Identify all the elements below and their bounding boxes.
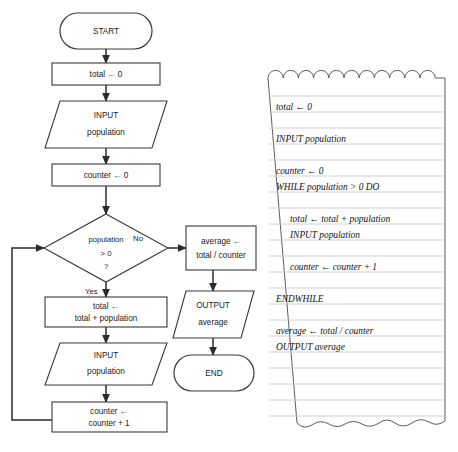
node-end-label: END — [205, 369, 222, 378]
node-input-population-2: INPUT population — [45, 343, 167, 385]
notepad-line-1: total ← 0 — [276, 102, 312, 112]
node-end: END — [174, 355, 254, 391]
node-total-accumulate-line1: total ← — [93, 302, 119, 311]
node-counter-increment-line2: counter + 1 — [88, 419, 130, 428]
node-decision-line3: ? — [104, 262, 108, 271]
notepad-line-16: OUTPUT average — [276, 342, 345, 352]
notepad-line-5: counter ← 0 — [276, 166, 324, 176]
node-input-population-2-line2: population — [87, 367, 125, 376]
node-start: START — [60, 13, 152, 49]
notepad: total ← 0 INPUT population counter ← 0 W… — [264, 64, 450, 436]
node-average-line1: average ← — [201, 237, 241, 246]
node-counter-increment: counter ← counter + 1 — [52, 402, 167, 432]
branch-label-yes: Yes — [85, 287, 98, 296]
node-total-accumulate: total ← total + population — [45, 297, 167, 327]
notepad-line-8: total ← total + population — [290, 214, 390, 224]
node-counter-increment-line1: counter ← — [90, 407, 128, 416]
node-average-line2: total / counter — [196, 251, 246, 260]
notepad-line-15: average ← total / counter — [276, 326, 374, 336]
notepad-line-11: counter ← counter + 1 — [290, 262, 377, 272]
node-input-population-1-line2: population — [87, 128, 125, 137]
node-total-init-label: total ← 0 — [90, 70, 123, 79]
node-decision: population > 0 ? — [44, 214, 168, 282]
node-decision-line2: > 0 — [101, 249, 112, 258]
notepad-line-13: ENDWHILE — [275, 294, 324, 304]
notepad-line-3: INPUT population — [275, 134, 346, 144]
notepad-rule-lines — [269, 96, 444, 416]
node-total-accumulate-line2: total + population — [75, 314, 138, 323]
notepad-line-9: INPUT population — [289, 230, 360, 240]
flowchart: START total ← 0 INPUT population counter… — [0, 0, 262, 452]
node-counter-init-label: counter ← 0 — [84, 171, 129, 180]
node-start-label: START — [93, 27, 119, 36]
node-counter-init: counter ← 0 — [52, 164, 160, 186]
diagram-canvas: START total ← 0 INPUT population counter… — [0, 0, 458, 452]
node-output-average-line1: OUTPUT — [196, 301, 230, 310]
notepad-line-6: WHILE population > 0 DO — [276, 182, 379, 192]
node-average: average ← total / counter — [186, 226, 256, 270]
node-output-average: OUTPUT average — [173, 291, 254, 338]
node-input-population-1: INPUT population — [45, 101, 167, 148]
connector-loop-back — [12, 248, 52, 420]
node-total-init: total ← 0 — [52, 63, 160, 85]
node-input-population-2-line1: INPUT — [94, 351, 119, 360]
node-input-population-1-line1: INPUT — [94, 111, 119, 120]
node-output-average-line2: average — [198, 318, 228, 327]
node-decision-line1: population — [88, 235, 123, 244]
branch-label-no: No — [133, 234, 144, 243]
notepad-paper — [268, 70, 445, 427]
